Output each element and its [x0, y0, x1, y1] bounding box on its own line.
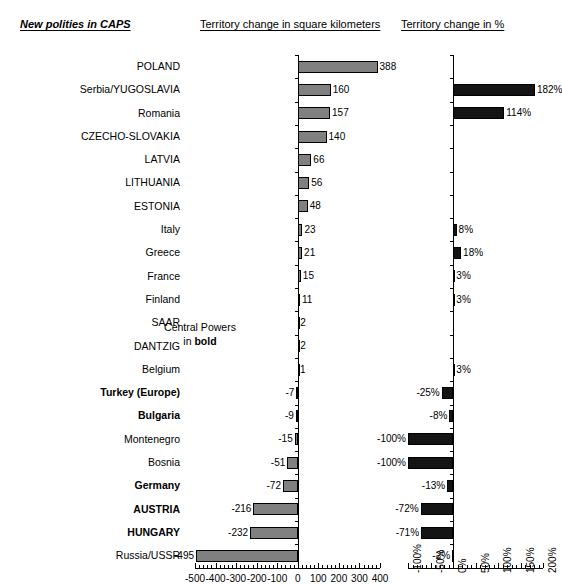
x-axis-major-tick	[431, 563, 432, 568]
category-label: Montenegro	[0, 428, 186, 451]
bar-value-label: -13%	[422, 481, 445, 491]
y-axis-tick	[295, 311, 299, 312]
category-label: Romania	[0, 102, 186, 125]
x-axis-tick-label: -500	[185, 573, 205, 584]
bar-value-label: 15	[303, 271, 314, 281]
y-axis-tick	[450, 358, 454, 359]
y-axis-tick	[295, 521, 299, 522]
category-label: Russia/USSR	[0, 544, 186, 567]
x-axis-tick-label: -100	[267, 573, 287, 584]
x-axis-tick-label: -50%	[435, 549, 446, 572]
x-axis-major-tick	[277, 563, 278, 568]
y-axis-tick	[450, 265, 454, 266]
bar	[449, 410, 453, 422]
x-axis-tick-label: -400	[206, 573, 226, 584]
category-label: Italy	[0, 218, 186, 241]
x-axis-minor-tick	[351, 565, 352, 568]
y-axis-tick	[295, 288, 299, 289]
y-axis-tick	[450, 311, 454, 312]
bar	[298, 61, 378, 73]
category-label: Turkey (Europe)	[0, 381, 186, 404]
chart-title-square-kilometers: Territory change in square kilometers	[200, 18, 380, 30]
bar-value-label: -72	[267, 481, 281, 491]
x-axis-minor-tick	[265, 565, 266, 568]
bar	[408, 433, 453, 445]
x-axis-major-tick	[236, 563, 237, 568]
chart-title-percent: Territory change in %	[401, 18, 504, 30]
category-label: Belgium	[0, 358, 186, 381]
x-axis-minor-tick	[376, 565, 377, 568]
y-axis-tick	[450, 288, 454, 289]
x-axis-major-tick	[216, 563, 217, 568]
category-label: ESTONIA	[0, 195, 186, 218]
bar-value-label: -51	[271, 458, 285, 468]
bar-value-label: 66	[313, 155, 324, 165]
bar-value-label: 3%	[456, 295, 470, 305]
bar	[453, 107, 504, 119]
x-axis-minor-tick	[290, 565, 291, 568]
bar	[196, 550, 298, 562]
x-axis-major-tick	[453, 563, 454, 568]
category-label: France	[0, 265, 186, 288]
x-axis-major-tick	[298, 563, 299, 568]
bar-value-label: 23	[305, 225, 316, 235]
x-axis-minor-tick	[294, 565, 295, 568]
bar-value-label: 18%	[463, 248, 483, 258]
x-axis-major-tick	[195, 563, 196, 568]
category-label: Finland	[0, 288, 186, 311]
y-axis-tick	[295, 498, 299, 499]
bar-value-label: 140	[329, 132, 346, 142]
bar-value-label: -15	[278, 434, 292, 444]
category-label: AUSTRIA	[0, 498, 186, 521]
x-axis-minor-tick	[449, 565, 450, 568]
y-axis-tick	[295, 405, 299, 406]
x-axis-minor-tick	[310, 565, 311, 568]
x-axis-minor-tick	[343, 565, 344, 568]
x-axis-major-tick	[339, 563, 340, 568]
bar	[296, 410, 298, 422]
y-axis-tick	[295, 428, 299, 429]
category-label: Bulgaria	[0, 404, 186, 427]
category-label: Germany	[0, 474, 186, 497]
bar-value-label: -216	[231, 504, 251, 514]
bar-value-label: 388	[380, 62, 397, 72]
x-axis-major-tick	[408, 563, 409, 568]
y-axis-tick	[450, 55, 454, 56]
bar	[298, 247, 302, 259]
x-axis-tick-label: -300	[226, 573, 246, 584]
bar-value-label: 160	[333, 85, 350, 95]
x-axis-minor-tick	[253, 565, 254, 568]
x-axis-minor-tick	[302, 565, 303, 568]
x-axis-minor-tick	[269, 565, 270, 568]
x-axis-minor-tick	[240, 565, 241, 568]
x-axis-minor-tick	[211, 565, 212, 568]
bar-value-label: 1	[300, 365, 306, 375]
y-axis-tick	[295, 55, 299, 56]
y-axis-tick	[295, 125, 299, 126]
x-axis-minor-tick	[368, 565, 369, 568]
bar-value-label: 3%	[456, 365, 470, 375]
x-axis-tick-label: 50%	[480, 553, 491, 573]
x-axis-minor-tick	[199, 565, 200, 568]
legend-note-new-polities: New polities in CAPS	[20, 18, 131, 30]
bar-value-label: -9	[285, 411, 294, 421]
x-axis-minor-tick	[248, 565, 249, 568]
x-axis-minor-tick	[331, 565, 332, 568]
bar	[442, 387, 453, 399]
bar	[298, 270, 301, 282]
bar	[298, 154, 312, 166]
y-axis-tick	[450, 521, 454, 522]
y-axis-tick	[450, 148, 454, 149]
y-axis-tick	[450, 381, 454, 382]
bar-value-label: -71%	[396, 528, 419, 538]
y-axis-tick	[450, 428, 454, 429]
bar-value-label: 3%	[456, 271, 470, 281]
x-axis-minor-tick	[539, 565, 540, 568]
y-axis-tick	[450, 218, 454, 219]
bar-value-label: 8%	[459, 225, 473, 235]
bar-value-label: 21	[304, 248, 315, 258]
category-label: Greece	[0, 241, 186, 264]
y-axis-tick	[450, 451, 454, 452]
x-axis-minor-tick	[228, 565, 229, 568]
